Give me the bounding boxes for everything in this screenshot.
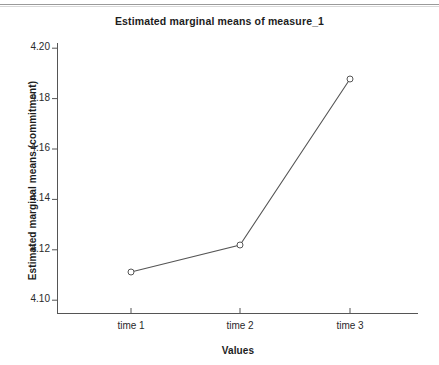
y-axis-ticks bbox=[52, 48, 58, 300]
plot-area bbox=[0, 0, 439, 365]
data-point-marker-time-3 bbox=[347, 76, 353, 82]
data-point-marker-time-1 bbox=[128, 269, 134, 275]
chart-page: Estimated marginal means of measure_1 Es… bbox=[0, 0, 439, 365]
data-point-marker-time-2 bbox=[237, 242, 243, 248]
x-axis-ticks bbox=[131, 308, 350, 314]
